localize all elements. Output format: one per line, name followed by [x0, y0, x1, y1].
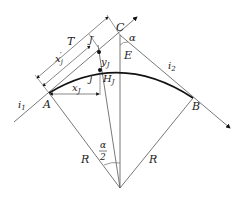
- radius-right: [120, 98, 193, 188]
- dimension-line-xj-prime: [43, 46, 90, 86]
- radius-left: [49, 93, 120, 188]
- label-xj-prime: xj′: [55, 50, 64, 66]
- angle-arc-half-alpha: [104, 162, 120, 165]
- label-i2: i2: [168, 60, 176, 73]
- label-alpha: α: [129, 32, 136, 43]
- label-B: B: [191, 100, 200, 113]
- label-R-left: R: [80, 153, 89, 166]
- label-C: C: [116, 21, 125, 34]
- label-E: E: [123, 49, 132, 62]
- grade-line-i2: [120, 35, 230, 128]
- label-half-alpha-numerator: α: [100, 140, 106, 150]
- label-half-alpha-denominator: 2: [99, 152, 106, 162]
- point-j-prime: [97, 50, 101, 54]
- angle-arc-alpha: [120, 42, 128, 45]
- label-j-prime: J′: [87, 34, 95, 45]
- label-i1: i1: [18, 99, 26, 112]
- label-R-right: R: [148, 153, 157, 166]
- vertical-curve-diagram: T xj′ J′ yJ J HJ xJ C E α i1 i2 A B R R …: [0, 0, 246, 202]
- point-hj: [98, 68, 102, 72]
- label-A: A: [42, 98, 51, 111]
- label-xj: xJ: [72, 82, 82, 95]
